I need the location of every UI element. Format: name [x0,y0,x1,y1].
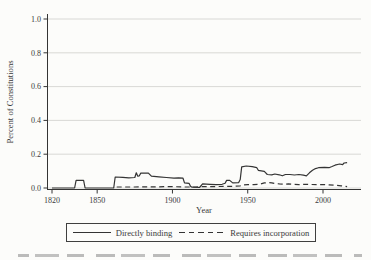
series-line-directly-binding [52,163,347,188]
legend-item-requires-incorporation: Requires incorporation [179,228,309,238]
y-tick-label: 0.6 [31,82,41,91]
legend-label-directly-binding: Directly binding [116,228,173,238]
legend-item-directly-binding: Directly binding [73,228,173,238]
axes [47,14,361,190]
x-tick-label: 2000 [315,196,331,205]
x-tick-label: 1900 [164,196,180,205]
y-tick-label: 0.4 [31,116,41,125]
tick-marks [44,19,324,194]
y-axis-title: Percent of Constitutions [5,60,15,144]
y-tick-label: 0.0 [31,184,41,193]
x-tick-label: 1820 [44,196,60,205]
dashed-line-sample-icon [179,232,225,233]
x-tick-label: 1950 [240,196,256,205]
y-tick-label: 1.0 [31,15,41,24]
y-tick-label: 0.8 [31,49,41,58]
gridlines [48,19,362,188]
solid-line-sample-icon [73,232,111,233]
tick-labels: 0.00.20.40.60.81.018201850190019502000 [31,15,331,205]
cropped-caption-fragment [18,253,362,257]
series-line-requires-incorporation [117,183,347,187]
line-chart: 0.00.20.40.60.81.018201850190019502000 P… [0,0,371,220]
legend-label-requires-incorporation: Requires incorporation [230,228,309,238]
figure-page: 0.00.20.40.60.81.018201850190019502000 P… [0,0,371,260]
y-tick-label: 0.2 [31,150,41,159]
x-axis-title: Year [196,205,212,215]
legend: Directly binding Requires incorporation [66,223,316,242]
x-tick-label: 1850 [89,196,105,205]
